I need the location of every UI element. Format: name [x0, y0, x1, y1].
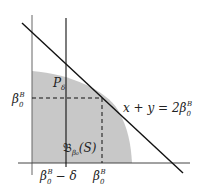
line-equation-label: x + y = 2β0B — [123, 100, 192, 118]
region-label-B-beta0-S: 𝔅β₀(S) — [63, 141, 97, 157]
x-tick-label-beta0B: β0B — [92, 168, 106, 186]
diagram-svg: β0B Pδ 𝔅β₀(S) x + y = 2β0B β0B− δ β0B — [0, 0, 206, 191]
x-tick-label-beta0B-minus-delta: β0B− δ — [39, 168, 77, 186]
y-tick-label-beta0B: β0B — [11, 91, 25, 109]
diagram-figure: β0B Pδ 𝔅β₀(S) x + y = 2β0B β0B− δ β0B — [0, 0, 206, 191]
